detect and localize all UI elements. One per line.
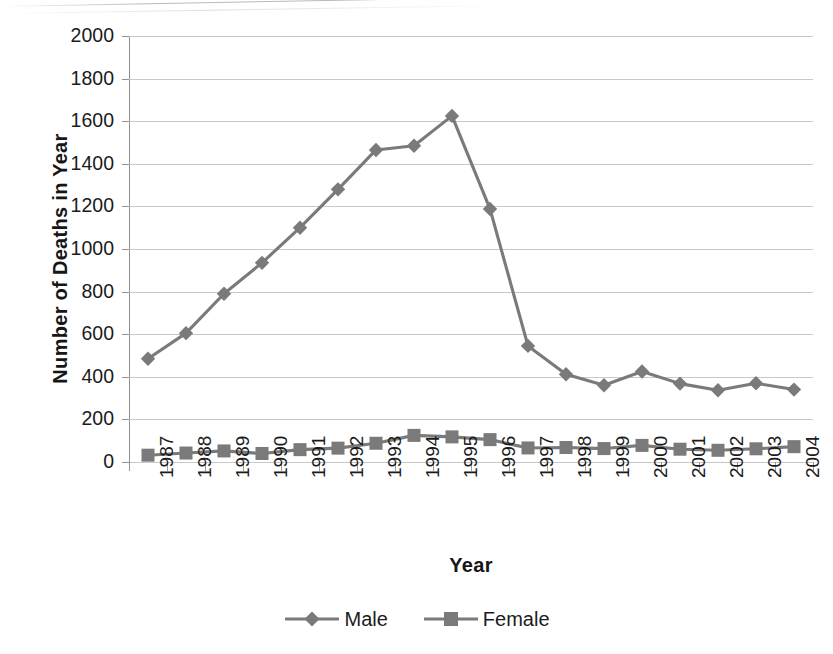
legend-entry-male[interactable]: Male — [283, 608, 387, 630]
data-point-female-1993 — [370, 437, 383, 450]
x-axis-tick-label: 1992 — [347, 436, 366, 478]
y-axis-tick-label: 600 — [48, 324, 114, 344]
data-point-female-1992 — [332, 442, 345, 455]
legend-marker-square-icon — [422, 608, 480, 630]
data-point-female-1994 — [408, 429, 421, 442]
data-point-male-2002 — [711, 383, 725, 397]
data-point-male-1999 — [597, 378, 611, 392]
data-point-male-1996 — [483, 202, 497, 216]
x-axis-tick-label: 2004 — [803, 436, 822, 478]
data-point-female-1990 — [256, 447, 269, 460]
data-point-female-2004 — [788, 440, 801, 453]
x-axis-tick-label: 1993 — [385, 436, 404, 478]
legend-marker-diamond-icon — [283, 608, 341, 630]
x-axis-tick-mark — [129, 462, 130, 471]
x-axis-tick-label: 1987 — [157, 436, 176, 478]
x-axis-tick-label: 2000 — [651, 436, 670, 478]
y-axis-tick-label: 1200 — [48, 196, 114, 216]
y-axis-tick-label: 400 — [48, 367, 114, 387]
data-point-male-2001 — [673, 376, 687, 390]
x-axis-tick-label: 1988 — [195, 436, 214, 478]
legend-label: Female — [483, 609, 550, 629]
x-axis-title: Year — [129, 554, 813, 577]
y-axis-tick-label: 1400 — [48, 154, 114, 174]
y-axis-tick-label: 1800 — [48, 69, 114, 89]
x-axis-tick-label: 1997 — [537, 436, 556, 478]
legend-label: Male — [344, 609, 387, 629]
data-point-female-1999 — [598, 442, 611, 455]
scan-artifact-line-secondary — [0, 5, 520, 14]
chart-legend: MaleFemale — [0, 608, 833, 630]
data-series-layer — [129, 36, 813, 462]
x-axis-tick-label: 1996 — [499, 436, 518, 478]
y-axis-tick-label: 1000 — [48, 239, 114, 259]
y-axis-tick-label: 800 — [48, 282, 114, 302]
series-line-male — [148, 116, 794, 390]
data-point-female-1988 — [180, 447, 193, 460]
data-point-female-1989 — [218, 444, 231, 457]
data-point-male-2000 — [635, 364, 649, 378]
x-axis-tick-label: 1994 — [423, 436, 442, 478]
y-axis-tick-label: 0 — [48, 452, 114, 472]
x-axis-tick-label: 2002 — [727, 436, 746, 478]
plot-area — [129, 36, 813, 462]
x-axis-tick-label: 1999 — [613, 436, 632, 478]
data-point-male-2004 — [787, 382, 801, 396]
data-point-female-2003 — [750, 442, 763, 455]
data-point-female-2001 — [674, 443, 687, 456]
data-point-female-2002 — [712, 444, 725, 457]
x-axis-tick-label: 2003 — [765, 436, 784, 478]
data-point-female-1991 — [294, 443, 307, 456]
legend-entry-female[interactable]: Female — [422, 608, 550, 630]
x-axis-tick-label: 1998 — [575, 436, 594, 478]
data-point-female-1995 — [446, 430, 459, 443]
data-point-female-1987 — [142, 449, 155, 462]
x-axis-tick-label: 1991 — [309, 436, 328, 478]
y-axis-tick-label: 2000 — [48, 26, 114, 46]
y-axis-tick-label: 200 — [48, 409, 114, 429]
series-male — [141, 109, 801, 398]
data-point-female-1998 — [560, 441, 573, 454]
data-point-female-1996 — [484, 433, 497, 446]
x-axis-tick-label: 1990 — [271, 436, 290, 478]
data-point-male-2003 — [749, 376, 763, 390]
y-axis-tick-label: 1600 — [48, 111, 114, 131]
x-axis-tick-label: 1995 — [461, 436, 480, 478]
data-point-female-1997 — [522, 441, 535, 454]
x-axis-tick-label: 1989 — [233, 436, 252, 478]
data-point-female-2000 — [636, 439, 649, 452]
x-axis-tick-label: 2001 — [689, 436, 708, 478]
line-chart: Number of Deaths in Year 200018001600140… — [0, 0, 833, 654]
